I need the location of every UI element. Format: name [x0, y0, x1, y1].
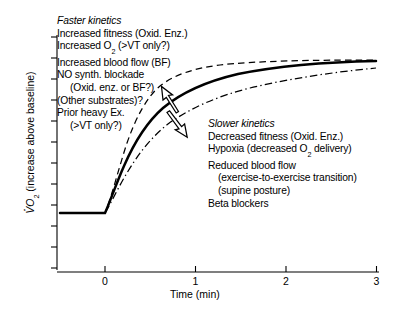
faster-kinetics-line-3: NO synth. blockade [57, 69, 188, 82]
faster-line-1-subscript: 2 [111, 47, 115, 56]
xtick-label-0: 0 [97, 275, 113, 287]
y-axis-title: VO2 (increase above baseline) [24, 48, 39, 238]
faster-kinetics-annotation: Faster kinetics Increased fitness (Oxid.… [57, 15, 188, 132]
slower-kinetics-line-5: Beta blockers [208, 198, 357, 211]
xtick-label-1: 1 [188, 275, 204, 287]
slower-kinetics-line-3: (exercise-to-exercise transition) [208, 172, 357, 185]
faster-kinetics-line-6: Prior heavy Ex. [57, 107, 188, 120]
faster-kinetics-line-5: (Other substrates)? [57, 95, 188, 108]
faster-kinetics-line-4: (Oxid. enz. or BF?) [57, 82, 188, 95]
slower-kinetics-line-2: Reduced blood flow [208, 160, 357, 173]
faster-kinetics-heading: Faster kinetics [57, 15, 188, 28]
faster-line-1-text: Increased O [57, 40, 111, 51]
slower-line-1-tail: delivery) [311, 143, 351, 154]
x-axis-title: Time (min) [170, 288, 220, 300]
faster-kinetics-line-2: Increased blood flow (BF) [57, 57, 188, 70]
xtick-label-3: 3 [369, 275, 385, 287]
y-axis-title-main: VO [24, 199, 36, 214]
x-axis-ticks [105, 266, 377, 272]
y-axis-title-tail: (increase above baseline) [24, 71, 36, 194]
faster-line-1-tail: (>VT only?) [115, 40, 169, 51]
slower-line-1-subscript: 2 [307, 150, 311, 159]
slower-kinetics-annotation: Slower kinetics Decreased fitness (Oxid.… [208, 118, 357, 210]
slower-kinetics-heading: Slower kinetics [208, 118, 357, 131]
slower-kinetics-line-0: Decreased fitness (Oxid. Enz.) [208, 131, 357, 144]
slower-line-1-text: Hypoxia (decreased O [208, 143, 307, 154]
faster-kinetics-line-0: Increased fitness (Oxid. Enz.) [57, 28, 188, 41]
faster-kinetics-line-1: Increased O2 (>VT only?) [57, 40, 188, 57]
faster-kinetics-line-7: (>VT only?) [57, 120, 188, 133]
vo2-kinetics-figure: Faster kinetics Increased fitness (Oxid.… [0, 0, 399, 314]
slower-kinetics-line-1: Hypoxia (decreased O2 delivery) [208, 143, 357, 160]
slower-kinetics-line-4: (supine posture) [208, 185, 357, 198]
y-axis-title-subscript: 2 [32, 195, 41, 199]
xtick-label-2: 2 [278, 275, 294, 287]
